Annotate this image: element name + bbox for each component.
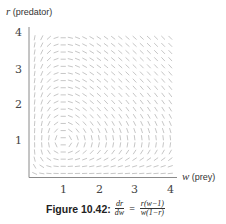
slope-segment [104,114,107,118]
slope-segment [154,72,158,76]
slope-segment [126,93,129,97]
slope-segment [155,128,157,133]
slope-segment [47,86,50,90]
slope-segment [54,51,59,53]
slope-segment [47,43,51,47]
slope-segment [169,107,172,111]
slope-segment [154,86,157,90]
slope-segment [169,86,172,90]
slope-segment [133,121,135,126]
slope-segment [139,166,144,167]
y-axis-title: r (predator) [6,5,52,17]
slope-segment [54,65,59,67]
slope-segment [68,115,73,117]
slope-segment [134,128,136,133]
slope-segment [83,122,86,126]
slope-segment [82,72,87,75]
slope-segment [111,36,115,39]
slope-segment [75,44,80,46]
slope-segment [54,108,59,110]
slope-segment [156,135,157,140]
slope-segment [133,107,136,111]
slope-segment [104,100,108,104]
slope-segment [34,107,35,112]
slope-segment [133,114,136,118]
slope-segment [111,86,115,90]
slope-segment [41,114,42,119]
slope-segment [148,128,150,133]
slope-segment [83,128,86,132]
slope-segment [168,43,172,47]
slope-segment [41,100,43,105]
slope-segment [169,50,173,54]
slope-segment [47,36,51,39]
slope-segment [104,86,108,90]
slope-segment [162,100,165,104]
slope-segment [68,94,73,95]
slope-segment [82,65,87,68]
slope-segment [90,44,94,47]
slope-segment [111,166,116,167]
slope-segment [170,135,171,140]
slope-segment [133,100,136,104]
slope-segment [126,79,130,83]
slope-segment [39,173,44,174]
slope-segment [147,36,151,40]
slope-segment [97,79,101,82]
slope-segment [147,50,151,54]
slope-segment [156,142,157,147]
slope-segment [170,142,171,147]
slope-segment [47,57,51,61]
slope-segment [104,150,107,154]
slope-segment [75,101,80,104]
slope-segment [111,43,115,46]
slope-segment [48,121,50,126]
slope-segment [54,129,58,133]
slope-segment [98,128,100,133]
slope-segment [89,158,94,160]
slope-segment [90,58,94,61]
slope-segment [75,80,80,82]
slope-segment [97,86,101,89]
slope-segment [46,166,51,167]
slope-segment [82,51,87,53]
slope-segment [162,128,164,133]
slope-segment [154,166,159,168]
slope-segment [133,65,137,69]
slope-segment [34,92,35,97]
slope-segment [154,100,157,104]
slope-segment [111,50,115,53]
slope-segment [34,157,35,162]
slope-segment [126,100,129,104]
slope-segment [113,142,114,147]
slope-segment [119,114,122,118]
slope-segment [69,143,72,147]
slope-segment [126,86,130,90]
slope-segment [34,35,35,40]
slope-segment [126,114,129,118]
slope-segment [170,128,172,133]
slope-segment [97,72,101,75]
slope-segment [47,93,50,97]
slope-segment [147,57,151,61]
slope-segment [75,58,80,60]
slope-segment [54,87,59,89]
slope-segment [154,50,158,54]
slope-segment [169,64,172,68]
slope-segment [53,166,58,167]
slope-segment [97,51,101,54]
slope-segment [112,114,115,118]
slope-segment [104,166,109,167]
slope-segment [48,128,50,133]
slope-segment [140,79,144,83]
slope-segment [118,57,122,60]
slope-segment [48,142,49,147]
slope-segment [34,149,35,154]
slope-segment [82,166,87,167]
slope-segment [112,128,114,133]
slope-segment [141,128,143,133]
slope-segment [140,64,144,68]
slope-segment [119,100,122,104]
slope-segment [148,142,149,147]
slope-segment [141,142,142,147]
